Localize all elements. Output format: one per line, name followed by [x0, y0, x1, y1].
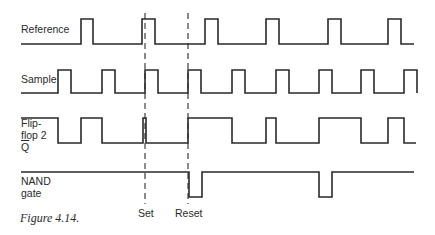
marker-label-reset: Reset — [175, 207, 202, 219]
label-sample: Sample — [21, 73, 57, 85]
label-nand-gate: NAND gate — [21, 175, 51, 199]
label-flipflop2-qbar: Flip- flop 2 Q — [21, 117, 47, 153]
waveform-sample — [21, 70, 417, 93]
waveform-flipflop2-qbar — [21, 118, 416, 143]
marker-label-set: Set — [138, 207, 154, 219]
waveform-nand-gate — [21, 172, 414, 197]
timing-diagram: Reference Sample Flip- flop 2 Q NAND gat… — [0, 0, 435, 235]
figure-caption: Figure 4.14. — [20, 211, 79, 226]
waveform-reference — [21, 19, 414, 44]
waveform-canvas — [0, 0, 435, 235]
label-reference: Reference — [21, 23, 69, 35]
